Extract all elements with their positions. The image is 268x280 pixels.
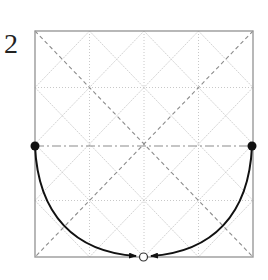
target-point-marker [140, 253, 148, 261]
right-point-marker [248, 142, 257, 151]
fold-diagram [0, 0, 268, 280]
left-point-marker [31, 142, 40, 151]
